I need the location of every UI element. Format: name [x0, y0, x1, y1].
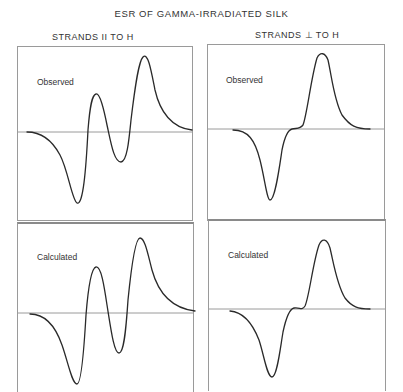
spectrum-parallel-calculated — [30, 238, 195, 384]
spectrum-perpendicular-observed — [233, 54, 370, 200]
spectrum-parallel-observed — [27, 56, 192, 203]
